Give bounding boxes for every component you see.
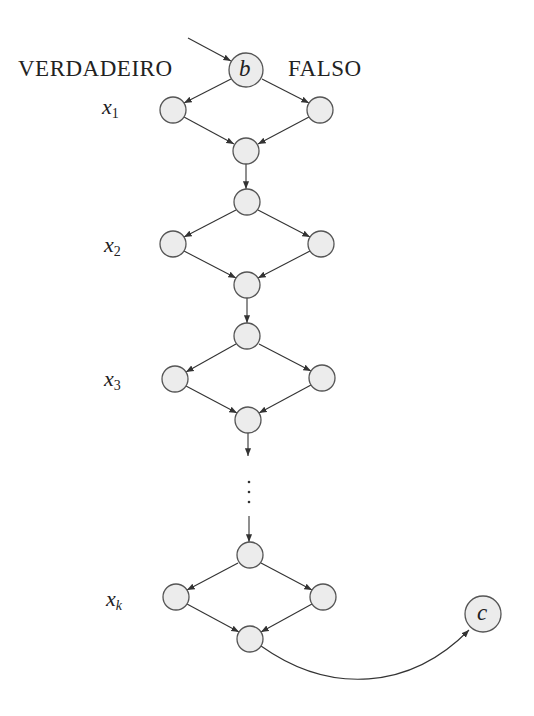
node-x1-true xyxy=(160,97,186,123)
nodes xyxy=(160,53,501,652)
node-xk-merge xyxy=(237,626,263,652)
node-c-label: c xyxy=(477,600,487,626)
node-xk-split xyxy=(237,542,263,568)
node-x3-true xyxy=(162,366,188,392)
node-x2-true xyxy=(160,231,186,257)
node-x1-merge xyxy=(233,138,259,164)
node-x2-false xyxy=(308,231,334,257)
node-x2-merge xyxy=(234,272,260,298)
node-x1-false xyxy=(307,97,333,123)
node-x3-split xyxy=(234,323,260,349)
node-xk-true xyxy=(163,584,189,610)
node-x3-merge xyxy=(235,407,261,433)
flow-diagram xyxy=(0,0,534,716)
node-x3-false xyxy=(309,365,335,391)
edges xyxy=(184,38,469,679)
ellipsis-dots xyxy=(248,481,251,504)
node-x2-split xyxy=(234,189,260,215)
node-b-label: b xyxy=(239,56,251,82)
node-xk-false xyxy=(310,584,336,610)
